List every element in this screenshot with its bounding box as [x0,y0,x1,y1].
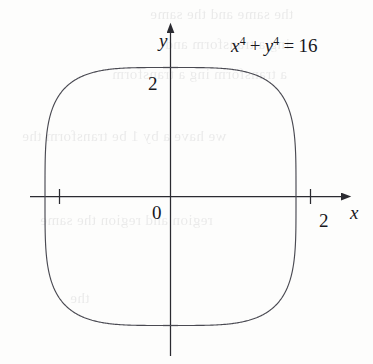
equation-equals: = [283,35,294,56]
origin-label: 0 [152,203,162,222]
figure-canvas: the same and the same ing a transform an… [0,0,373,364]
y-axis-label: y [159,31,167,50]
x-tick-label-2: 2 [319,211,329,230]
y-tick-label-2: 2 [148,74,158,93]
equation-plus: + [250,35,261,56]
x-axis-label: x [350,203,358,222]
equation-annotation: x4 + y4 = 16 [231,36,318,55]
equation-rhs: 16 [298,35,317,56]
equation-base-x: x [231,35,240,56]
